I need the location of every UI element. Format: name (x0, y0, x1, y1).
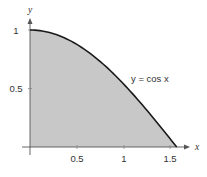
curve-label: y = cos x (131, 73, 169, 84)
y-tick-label-1: 1 (13, 25, 18, 36)
cosine-area-chart: 0.5 1 1.5 0.5 1 x y y = cos x (0, 0, 207, 177)
y-tick-label-0.5: 0.5 (9, 83, 22, 94)
shaded-area-under-curve (30, 30, 177, 147)
x-axis-label: x (194, 142, 200, 152)
x-tick-label-1: 1 (121, 153, 126, 164)
y-axis-label: y (27, 5, 33, 15)
x-axis-arrow-icon (184, 145, 190, 150)
x-tick-label-1.5: 1.5 (163, 153, 176, 164)
y-axis-arrow-icon (28, 18, 33, 24)
x-tick-label-0.5: 0.5 (70, 153, 83, 164)
